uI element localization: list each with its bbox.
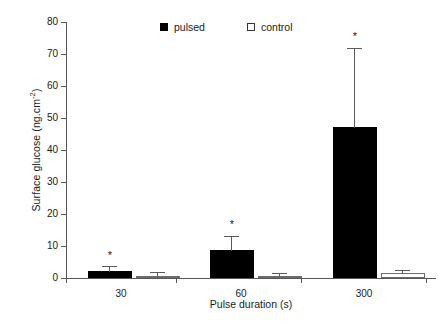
legend-entry-control[interactable]: control [247,21,293,33]
legend-entry-pulsed[interactable]: pulsed [160,21,205,33]
x-axis-line [66,278,436,279]
y-tick-60 [61,86,66,87]
significance-asterisk-pulsed-300: * [345,31,365,42]
x-tick-left-edge [66,278,67,283]
x-tick-right-edge [426,278,427,283]
y-tick-label-30: 30 [32,177,58,187]
y-tick-label-40: 40 [32,145,58,155]
x-axis-label: Pulse duration (s) [66,298,436,310]
y-tick-label-80: 80 [32,17,58,27]
legend-label-pulsed: pulsed [174,21,205,33]
bar-control-300[interactable] [381,273,425,278]
errorbar-cap-control-30 [150,272,165,273]
y-tick-50 [61,118,66,119]
y-tick-label-60: 60 [32,81,58,91]
errorbar-cap-control-60 [272,273,287,274]
y-tick-label-20: 20 [32,209,58,219]
errorbar-cap-control-300 [395,270,410,271]
y-tick-80 [61,22,66,23]
legend-swatch-open-icon [247,23,255,31]
y-tick-label-50: 50 [32,113,58,123]
y-tick-30 [61,182,66,183]
legend-swatch-filled-icon [160,23,168,31]
y-tick-70 [61,54,66,55]
y-tick-40 [61,150,66,151]
y-axis-line [66,22,67,278]
bar-control-30[interactable] [136,276,180,278]
bar-control-60[interactable] [258,276,302,278]
bar-pulsed-30[interactable] [88,271,132,278]
y-tick-label-0: 0 [32,273,58,283]
errorbar-cap-pulsed-60 [224,236,239,237]
bar-pulsed-60[interactable] [210,250,254,278]
y-tick-10 [61,246,66,247]
significance-asterisk-pulsed-60: * [222,219,242,230]
x-tick-boundary-1 [176,278,177,283]
legend-label-control: control [261,21,293,33]
errorbar-cap-pulsed-30 [102,266,117,267]
figure-bar-chart: Surface glucose (ng.cm-2) 0 10 20 30 40 … [0,0,444,324]
y-axis-label-superscript: -2 [28,92,37,99]
y-tick-label-70: 70 [32,49,58,59]
chart-legend: pulsed control [160,20,292,34]
bar-pulsed-300[interactable] [333,127,377,278]
y-tick-label-10: 10 [32,241,58,251]
significance-asterisk-pulsed-30: * [100,250,120,261]
y-tick-20 [61,214,66,215]
plot-area: 0 10 20 30 40 50 60 70 80 30 60 300 * [66,22,436,278]
errorbar-stem-pulsed-300 [354,48,355,128]
x-tick-boundary-2 [301,278,302,283]
errorbar-stem-pulsed-60 [231,236,232,251]
errorbar-cap-pulsed-300 [347,48,362,49]
